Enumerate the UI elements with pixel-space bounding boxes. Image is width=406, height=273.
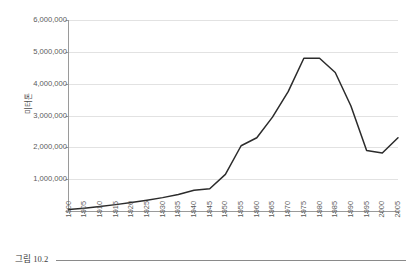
x-tick-label-text: 1995 [362,200,372,217]
x-tick-label: 1930 [158,200,168,234]
x-tick-label-text: 1920 [126,200,136,217]
x-tick-label-text: 1900 [64,200,74,217]
x-tick-label-text: 1955 [236,200,246,217]
x-tick-label: 1945 [205,200,215,234]
x-tick-label-text: 1965 [267,200,277,217]
caption-divider [56,260,406,261]
x-tick-label: 1990 [346,200,356,234]
data-series-line [69,58,399,209]
x-tick-label: 1900 [64,200,74,234]
x-tick-label-text: 1950 [220,200,230,217]
x-tick-label: 1995 [362,200,372,234]
y-tick-label: 1,000,000 [18,175,67,183]
x-tick-label-text: 1930 [158,200,168,217]
x-tick-label: 1915 [111,200,121,234]
x-tick-label-text: 1985 [330,200,340,217]
x-tick-label-text: 1970 [283,200,293,217]
x-tick-label: 1960 [252,200,262,234]
x-tick-label-text: 1975 [299,200,309,217]
x-tick-label-text: 1935 [173,200,183,217]
x-tick-label-text: 1910 [95,200,105,217]
x-tick-label: 2005 [393,200,403,234]
x-tick-label: 2000 [377,200,387,234]
x-tick-label: 1905 [79,200,89,234]
x-tick-label-text: 1915 [111,200,121,217]
x-tick-label: 1985 [330,200,340,234]
x-tick-label-text: 1945 [205,200,215,217]
figure-root: 1,000,0002,000,0003,000,0004,000,0005,00… [0,0,406,273]
x-tick-label-text: 2000 [377,200,387,217]
x-tick-label: 1950 [220,200,230,234]
x-tick-label: 1935 [173,200,183,234]
x-tick-label-text: 1980 [315,200,325,217]
x-tick-label: 1920 [126,200,136,234]
x-tick-label-text: 2005 [393,200,403,217]
x-tick-label: 1975 [299,200,309,234]
x-tick-label: 1940 [189,200,199,234]
x-tick-label: 1910 [95,200,105,234]
y-axis-title: 미터톤 [22,80,36,126]
x-tick-label: 1965 [267,200,277,234]
figure-caption: 그림 10.2 [0,252,406,273]
x-tick-label: 1980 [315,200,325,234]
x-tick-label-text: 1990 [346,200,356,217]
y-tick-label: 6,000,000 [18,16,67,24]
x-tick-label-text: 1925 [142,200,152,217]
x-tick-label: 1955 [236,200,246,234]
x-tick-label: 1970 [283,200,293,234]
x-tick-label-text: 1960 [252,200,262,217]
x-tick-label-text: 1940 [189,200,199,217]
y-tick-label: 2,000,000 [18,143,67,151]
y-tick-label: 5,000,000 [18,48,67,56]
caption-label: 그림 10.2 [15,254,48,265]
x-tick-label: 1925 [142,200,152,234]
x-axis-tick-labels: 1900190519101915192019251930193519401945… [0,212,406,254]
x-tick-label-text: 1905 [79,200,89,217]
